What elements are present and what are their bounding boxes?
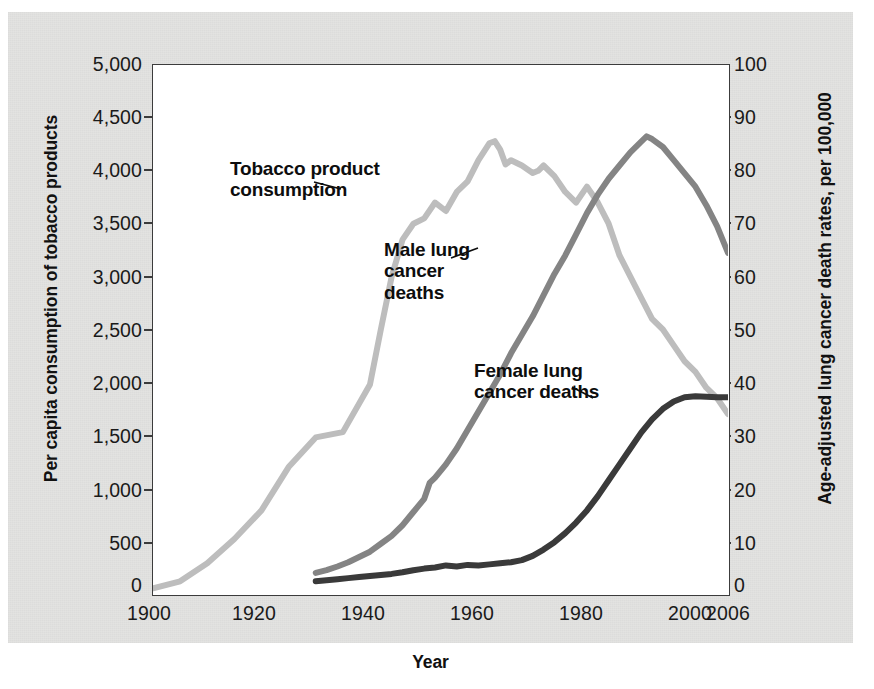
ytick-right-100: 100 [734, 53, 804, 76]
figure-root: 5,000 4,500 4,000 3,500 3,000 2,500 2,00… [0, 0, 874, 689]
female-annotation: Female lung cancer deaths [474, 360, 599, 403]
ytick-right-20: 20 [734, 479, 804, 502]
male-annotation: Male lung cancer deaths [384, 239, 470, 303]
series-line-female-lung-cancer-deaths [316, 396, 728, 581]
xtick-1940: 1940 [318, 602, 408, 625]
ytick-left-500: 500 [22, 532, 142, 555]
ytick-right-50: 50 [734, 319, 804, 342]
xtick-1900: 1900 [104, 602, 194, 625]
ytick-left-0: 0 [22, 574, 142, 597]
ytick-right-80: 80 [734, 159, 804, 182]
xtick-2006: 2006 [683, 602, 773, 625]
ytick-left-5000: 5,000 [22, 53, 142, 76]
ytick-right-30: 30 [734, 425, 804, 448]
x-axis-title: Year [8, 652, 853, 673]
y-axis-left-title: Per capita consumption of tobacco produc… [41, 89, 62, 509]
xtick-1980: 1980 [536, 602, 626, 625]
tobacco-annotation: Tobacco product consumption [230, 158, 380, 201]
ytick-right-10: 10 [734, 532, 804, 555]
xtick-1960: 1960 [427, 602, 517, 625]
series-canvas [153, 65, 728, 594]
ytick-right-90: 90 [734, 106, 804, 129]
ytick-right-60: 60 [734, 266, 804, 289]
figure-panel: 5,000 4,500 4,000 3,500 3,000 2,500 2,00… [8, 12, 853, 643]
y-axis-right-title: Age-adjusted lung cancer death rates, pe… [815, 89, 836, 509]
ytick-right-0: 0 [734, 574, 804, 597]
ytick-right-70: 70 [734, 212, 804, 235]
xtick-1920: 1920 [209, 602, 299, 625]
ytick-right-40: 40 [734, 372, 804, 395]
plot-area [152, 64, 730, 596]
series-line-tobacco-product-consumption [153, 141, 728, 588]
